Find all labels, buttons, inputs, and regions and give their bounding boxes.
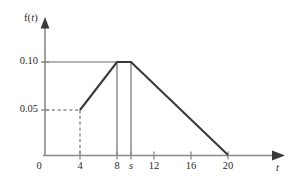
x-axis-arrowhead: [272, 151, 285, 161]
y-axis-title-suffix: ): [34, 12, 38, 23]
y-axis-title: f(t): [24, 13, 38, 24]
density-curve: [80, 62, 228, 155]
x-axis-title: t: [276, 163, 279, 174]
y-tick-label-0.05: 0.05: [6, 104, 38, 115]
x-tick-label-16: 16: [182, 161, 200, 172]
x-tick-label-8: 8: [110, 161, 124, 172]
x-tick-label-4: 4: [73, 161, 87, 172]
y-tick-label-0.10: 0.10: [6, 56, 38, 67]
origin-label: 0: [32, 161, 46, 172]
chart-figure: f(t) 0.10 0.05 0 4 8 s 12 16 20 t: [0, 0, 296, 187]
y-axis-arrowhead: [41, 17, 50, 29]
chart-canvas: [0, 0, 296, 187]
x-tick-label-12: 12: [145, 161, 163, 172]
x-tick-label-s: s: [124, 161, 138, 172]
x-tick-label-20: 20: [219, 161, 237, 172]
